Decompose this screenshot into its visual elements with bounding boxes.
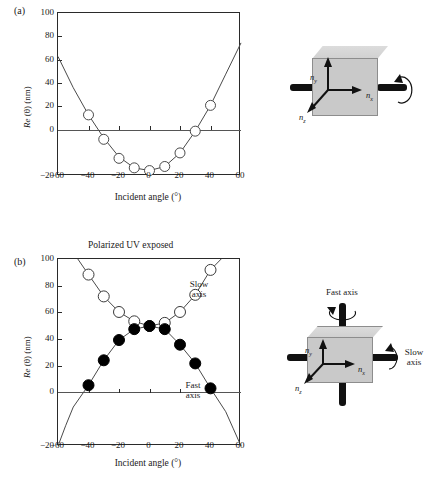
cube-a-label-nx: nx xyxy=(366,90,373,102)
panel-a-ytick-100: 100 xyxy=(32,7,54,17)
figure-root: (a) Re (θ) (nm) 100 80 60 40 20 0 −20 xyxy=(0,0,430,481)
panel-a-ytick-20: 20 xyxy=(32,100,54,110)
panel-b-xtick-60: 60 xyxy=(236,440,245,450)
cube-a-nx-sub: x xyxy=(370,96,373,102)
panel-b-xtick-40: 40 xyxy=(205,440,214,450)
panel-a-xtick-minus20: −20 xyxy=(111,170,125,180)
panel-b-letter: (b) xyxy=(14,256,26,267)
panel-b-y-label-re: Re xyxy=(22,369,32,379)
cube-b-label-ny: ny xyxy=(305,345,312,357)
panel-b-annotation-fast-axis: Fast axis xyxy=(176,380,210,400)
cube-b-nx-sub: x xyxy=(362,370,365,376)
panel-b-y-label-theta: (θ) xyxy=(22,354,32,369)
panel-a-markers xyxy=(58,13,241,176)
cube-a-nz-sub: z xyxy=(303,118,305,124)
fast-axis-line1: Fast xyxy=(185,380,200,390)
panel-b-ytick-20: 20 xyxy=(32,360,54,370)
panel-a-y-axis-label: Re (θ) (nm) xyxy=(22,86,32,128)
panel-b-ytick-40: 40 xyxy=(32,333,54,343)
panel-a-ytick-0: 0 xyxy=(32,124,54,134)
slow-axis-line2: axis xyxy=(192,289,207,299)
panel-b-xtick-20: 20 xyxy=(175,440,184,450)
y-label-re: Re xyxy=(22,119,32,129)
panel-b-xtick-minus60: −60 xyxy=(50,440,64,450)
panel-b-ytick-60: 60 xyxy=(32,306,54,316)
panel-a-ytick-40: 40 xyxy=(32,77,54,87)
panel-a-ytick-60: 60 xyxy=(32,54,54,64)
fast-axis-line2: axis xyxy=(186,390,201,400)
panel-a-ytick-80: 80 xyxy=(32,30,54,40)
panel-a-xtick-minus40: −40 xyxy=(80,170,94,180)
panel-a-xtick-0: 0 xyxy=(146,170,151,180)
panel-a-xtick-60: 60 xyxy=(236,170,245,180)
diagram-b: Fast axis xyxy=(285,285,430,425)
panel-a-xtick-20: 20 xyxy=(175,170,184,180)
panel-a: (a) Re (θ) (nm) 100 80 60 40 20 0 −20 xyxy=(0,0,430,215)
cube-b-nz-sub: z xyxy=(299,389,301,395)
panel-a-xtick-minus60: −60 xyxy=(50,170,64,180)
panel-b-xtick-minus40: −40 xyxy=(80,440,94,450)
panel-b-annotation-slow-axis: Slow axis xyxy=(182,279,216,299)
panel-b: Polarized UV exposed (b) Re (θ) (nm) 100… xyxy=(0,240,430,481)
panel-b-ytick-100: 100 xyxy=(32,253,54,263)
panel-b-xtick-minus20: −20 xyxy=(111,440,125,450)
panel-a-xtick-40: 40 xyxy=(205,170,214,180)
panel-b-y-axis-label: Re (θ) (nm) xyxy=(22,336,32,378)
cube-a-axes-arrows xyxy=(290,38,425,148)
diagram-b-slow-line1: Slow xyxy=(405,347,424,357)
cube-a-label-ny: ny xyxy=(310,72,317,84)
cube-a-ny-sub: y xyxy=(314,78,317,84)
panel-a-plot-area xyxy=(57,12,240,175)
cube-a-label-nz: nz xyxy=(299,112,306,124)
panel-b-title: Polarized UV exposed xyxy=(88,240,173,250)
diagram-b-slow-axis-label: Slow axis xyxy=(397,347,430,367)
panel-a-x-axis-label: Incident angle (°) xyxy=(88,192,208,202)
cube-b-label-nx: nx xyxy=(358,364,365,376)
slow-axis-line1: Slow xyxy=(190,279,209,289)
panel-b-y-label-unit: (nm) xyxy=(22,336,32,354)
y-label-unit: (nm) xyxy=(22,86,32,104)
panel-b-plot-area: Slow axis Fast axis xyxy=(57,258,240,445)
panel-b-x-axis-label: Incident angle (°) xyxy=(88,458,208,468)
y-label-theta: (θ) xyxy=(22,104,32,119)
panel-b-ytick-0: 0 xyxy=(32,386,54,396)
cube-b-ny-sub: y xyxy=(309,351,312,357)
panel-b-ytick-80: 80 xyxy=(32,280,54,290)
panel-a-letter: (a) xyxy=(14,5,25,16)
diagram-a: ny nx nz xyxy=(290,38,425,148)
cube-b-label-nz: nz xyxy=(295,383,302,395)
diagram-b-slow-line2: axis xyxy=(407,357,422,367)
panel-b-xtick-0: 0 xyxy=(146,440,151,450)
